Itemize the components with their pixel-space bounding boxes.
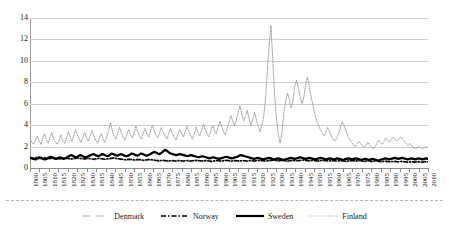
x-axis-tick-label: 1935	[289, 173, 296, 187]
legend-label: Norway	[193, 212, 219, 221]
x-axis-tick-mark	[134, 169, 135, 172]
y-axis-tick-label: 2	[2, 143, 28, 151]
x-axis-tick-mark	[314, 169, 315, 172]
x-axis-tick-mark	[267, 169, 268, 172]
x-axis-tick-mark	[352, 169, 353, 172]
x-axis-tick-mark	[286, 169, 287, 172]
x-axis-tick-label: 1895	[213, 173, 220, 187]
x-axis-tick-mark	[257, 169, 258, 172]
x-axis-tick-label: 1975	[365, 173, 372, 187]
x-axis-tick-label: 1915	[251, 173, 258, 187]
legend-item-sweden[interactable]: Sweden	[236, 212, 293, 221]
x-axis-tick-mark	[419, 169, 420, 172]
x-axis-tick-mark	[172, 169, 173, 172]
x-axis-tick-label: 1880	[185, 173, 192, 187]
y-axis: 02468101214	[0, 0, 28, 186]
x-axis-tick-label: 1885	[194, 173, 201, 187]
x-axis-tick-label: 1840	[109, 173, 116, 187]
x-axis-tick-mark	[153, 169, 154, 172]
x-axis-tick-label: 1890	[204, 173, 211, 187]
x-axis-tick-label: 1850	[128, 173, 135, 187]
x-axis-tick-mark	[295, 169, 296, 172]
series-line-finland	[30, 26, 428, 149]
x-axis-tick-mark	[362, 169, 363, 172]
y-axis-tick-label: 14	[2, 14, 28, 22]
legend-label: Denmark	[114, 212, 144, 221]
chart-legend: DenmarkNorwaySwedenFinland	[0, 205, 449, 227]
x-axis-tick-mark	[333, 169, 334, 172]
legend-item-norway[interactable]: Norway	[161, 212, 219, 221]
x-axis-tick-mark	[220, 169, 221, 172]
dotted-line-swatch	[310, 212, 338, 220]
legend-divider	[6, 200, 443, 201]
x-axis-tick-label: 1835	[99, 173, 106, 187]
x-axis-tick-mark	[58, 169, 59, 172]
legend-item-finland[interactable]: Finland	[310, 212, 366, 221]
x-axis-tick-label: 1870	[166, 173, 173, 187]
x-axis-tick-mark	[144, 169, 145, 172]
x-axis-tick-label: 1830	[90, 173, 97, 187]
x-axis-tick-mark	[125, 169, 126, 172]
legend-label: Finland	[342, 212, 366, 221]
line-chart: 02468101214 1800180518101815182018251830…	[0, 0, 449, 234]
y-axis-tick-label: 12	[2, 35, 28, 43]
x-axis-tick-mark	[428, 169, 429, 172]
x-axis-tick-label: 1980	[374, 173, 381, 187]
x-axis-tick-mark	[49, 169, 50, 172]
x-axis: 1800180518101815182018251830183518401845…	[30, 169, 429, 203]
legend-item-denmark[interactable]: Denmark	[82, 212, 144, 221]
x-axis-tick-label: 1960	[336, 173, 343, 187]
x-axis-tick-label: 1860	[147, 173, 154, 187]
x-axis-tick-mark	[248, 169, 249, 172]
x-axis-tick-mark	[409, 169, 410, 172]
solid-line-swatch	[236, 212, 264, 220]
x-axis-tick-label: 1990	[393, 173, 400, 187]
x-axis-tick-mark	[390, 169, 391, 172]
x-axis-tick-label: 1955	[327, 173, 334, 187]
x-axis-tick-mark	[201, 169, 202, 172]
x-axis-tick-mark	[210, 169, 211, 172]
y-axis-tick-label: 0	[2, 164, 28, 172]
x-axis-tick-label: 1800	[33, 173, 40, 187]
x-axis-tick-label: 2000	[412, 173, 419, 187]
x-axis-tick-mark	[68, 169, 69, 172]
y-axis-tick-label: 10	[2, 57, 28, 65]
x-axis-tick-mark	[163, 169, 164, 172]
y-axis-tick-label: 6	[2, 100, 28, 108]
x-axis-tick-label: 1805	[42, 173, 49, 187]
x-axis-tick-mark	[400, 169, 401, 172]
x-axis-tick-label: 2005	[422, 173, 429, 187]
x-axis-tick-label: 1910	[241, 173, 248, 187]
x-axis-tick-label: 1940	[298, 173, 305, 187]
x-axis-tick-mark	[115, 169, 116, 172]
x-axis-tick-label: 1950	[317, 173, 324, 187]
x-axis-tick-mark	[77, 169, 78, 172]
dashdot-line-swatch	[161, 212, 189, 220]
x-axis-tick-mark	[381, 169, 382, 172]
x-axis-tick-mark	[324, 169, 325, 172]
x-axis-tick-label: 1965	[346, 173, 353, 187]
x-axis-tick-mark	[182, 169, 183, 172]
x-axis-tick-mark	[305, 169, 306, 172]
dashed-line-swatch	[82, 212, 110, 220]
x-axis-tick-label: 1855	[137, 173, 144, 187]
x-axis-tick-mark	[87, 169, 88, 172]
y-axis-tick-label: 4	[2, 121, 28, 129]
x-axis-tick-label: 1845	[118, 173, 125, 187]
x-axis-tick-mark	[238, 169, 239, 172]
plot-area	[30, 18, 428, 168]
y-axis-tick-label: 8	[2, 78, 28, 86]
x-axis-tick-mark	[106, 169, 107, 172]
x-axis-tick-label: 1945	[308, 173, 315, 187]
x-axis-tick-mark	[30, 169, 31, 172]
x-axis-tick-mark	[276, 169, 277, 172]
x-axis-tick-label: 1815	[61, 173, 68, 187]
x-axis-tick-label: 1905	[232, 173, 239, 187]
x-axis-tick-mark	[39, 169, 40, 172]
x-axis-tick-mark	[229, 169, 230, 172]
x-axis-tick-label: 1930	[279, 173, 286, 187]
x-axis-tick-mark	[343, 169, 344, 172]
x-axis-tick-label: 1825	[80, 173, 87, 187]
x-axis-tick-mark	[191, 169, 192, 172]
x-axis-tick-label: 1875	[175, 173, 182, 187]
